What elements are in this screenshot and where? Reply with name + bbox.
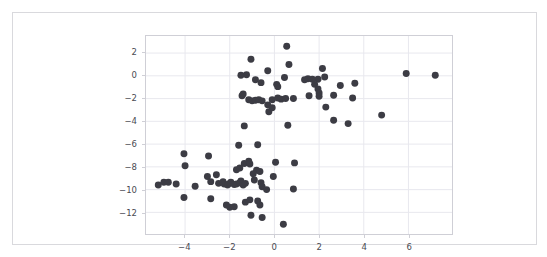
scatter-point[interactable] bbox=[270, 173, 277, 180]
scatter-point[interactable] bbox=[250, 170, 257, 177]
scatter-point[interactable] bbox=[256, 202, 263, 209]
x-tick-label-4: 4 bbox=[361, 243, 366, 252]
scatter-point[interactable] bbox=[246, 161, 253, 168]
scatter-points-layer[interactable] bbox=[146, 36, 452, 234]
scatter-point[interactable] bbox=[283, 43, 290, 50]
scatter-point[interactable] bbox=[192, 183, 199, 190]
scatter-point[interactable] bbox=[285, 61, 292, 68]
x-tick-mark-3 bbox=[319, 235, 320, 238]
scatter-point[interactable] bbox=[235, 142, 242, 149]
x-tick-label-3: 2 bbox=[317, 243, 322, 252]
x-tick-label-1: −2 bbox=[223, 243, 236, 252]
scatter-point[interactable] bbox=[231, 203, 238, 210]
scatter-point[interactable] bbox=[180, 194, 187, 201]
y-tick-mark-4 bbox=[142, 144, 145, 145]
y-tick-label-0: 2 bbox=[103, 48, 137, 57]
scatter-point[interactable] bbox=[165, 179, 172, 186]
y-tick-label-6: −10 bbox=[103, 186, 137, 195]
scatter-point[interactable] bbox=[432, 72, 439, 79]
y-tick-mark-7 bbox=[142, 213, 145, 214]
scatter-point[interactable] bbox=[258, 79, 265, 86]
scatter-point[interactable] bbox=[351, 80, 358, 87]
scatter-point[interactable] bbox=[269, 104, 276, 111]
y-tick-label-5: −8 bbox=[103, 163, 137, 172]
scatter-point[interactable] bbox=[180, 150, 187, 157]
x-tick-mark-4 bbox=[364, 235, 365, 238]
scatter-point[interactable] bbox=[213, 171, 220, 178]
scatter-point[interactable] bbox=[207, 178, 214, 185]
scatter-point[interactable] bbox=[349, 95, 356, 102]
scatter-point[interactable] bbox=[182, 162, 189, 169]
scatter-point[interactable] bbox=[264, 67, 271, 74]
y-tick-mark-5 bbox=[142, 167, 145, 168]
x-tick-mark-2 bbox=[274, 235, 275, 238]
y-tick-label-3: −4 bbox=[103, 117, 137, 126]
scatter-point[interactable] bbox=[256, 168, 263, 175]
scatter-point[interactable] bbox=[378, 112, 385, 119]
scatter-point[interactable] bbox=[281, 74, 288, 81]
scatter-point[interactable] bbox=[247, 212, 254, 219]
scatter-point[interactable] bbox=[243, 71, 250, 78]
scatter-point[interactable] bbox=[242, 180, 249, 187]
scatter-point[interactable] bbox=[259, 97, 266, 104]
scatter-point[interactable] bbox=[306, 92, 313, 99]
scatter-point[interactable] bbox=[290, 95, 297, 102]
scatter-point[interactable] bbox=[337, 82, 344, 89]
scatter-point[interactable] bbox=[259, 214, 266, 221]
scatter-point[interactable] bbox=[291, 159, 298, 166]
scatter-point[interactable] bbox=[205, 153, 212, 160]
scatter-plot-area[interactable] bbox=[145, 35, 453, 235]
scatter-point[interactable] bbox=[330, 117, 337, 124]
scatter-point[interactable] bbox=[247, 56, 254, 63]
scatter-point[interactable] bbox=[207, 195, 214, 202]
x-tick-mark-0 bbox=[184, 235, 185, 238]
y-tick-label-2: −2 bbox=[103, 94, 137, 103]
scatter-point[interactable] bbox=[274, 83, 281, 90]
x-tick-mark-5 bbox=[409, 235, 410, 238]
scatter-point[interactable] bbox=[272, 159, 279, 166]
x-tick-label-2: 0 bbox=[272, 243, 277, 252]
scatter-point[interactable] bbox=[322, 104, 329, 111]
y-tick-mark-3 bbox=[142, 121, 145, 122]
scatter-point[interactable] bbox=[330, 92, 337, 99]
y-tick-mark-1 bbox=[142, 75, 145, 76]
y-tick-label-1: 0 bbox=[103, 71, 137, 80]
y-tick-label-4: −6 bbox=[103, 140, 137, 149]
scatter-point[interactable] bbox=[241, 122, 248, 129]
scatter-point[interactable] bbox=[321, 74, 328, 81]
y-tick-mark-2 bbox=[142, 98, 145, 99]
scatter-point[interactable] bbox=[263, 186, 270, 193]
x-tick-mark-1 bbox=[229, 235, 230, 238]
scatter-point[interactable] bbox=[240, 91, 247, 98]
scatter-point[interactable] bbox=[345, 120, 352, 127]
scatter-point[interactable] bbox=[173, 180, 180, 187]
x-tick-label-5: 6 bbox=[406, 243, 411, 252]
figure-root: 20−2−4−6−8−10−12 −4−20246 bbox=[0, 0, 547, 257]
scatter-point[interactable] bbox=[403, 70, 410, 77]
scatter-point[interactable] bbox=[251, 176, 258, 183]
figure-frame: 20−2−4−6−8−10−12 −4−20246 bbox=[12, 12, 537, 245]
scatter-point[interactable] bbox=[280, 221, 287, 228]
y-tick-mark-0 bbox=[142, 52, 145, 53]
x-tick-label-0: −4 bbox=[178, 243, 191, 252]
scatter-point[interactable] bbox=[301, 76, 308, 83]
scatter-point[interactable] bbox=[254, 141, 261, 148]
scatter-point[interactable] bbox=[316, 93, 323, 100]
scatter-point[interactable] bbox=[236, 165, 243, 172]
y-tick-mark-6 bbox=[142, 190, 145, 191]
scatter-point[interactable] bbox=[223, 202, 230, 209]
scatter-point[interactable] bbox=[319, 65, 326, 72]
scatter-point[interactable] bbox=[246, 196, 253, 203]
scatter-point[interactable] bbox=[282, 95, 289, 102]
scatter-point[interactable] bbox=[290, 186, 297, 193]
scatter-point[interactable] bbox=[284, 122, 291, 129]
y-tick-label-7: −12 bbox=[103, 209, 137, 218]
